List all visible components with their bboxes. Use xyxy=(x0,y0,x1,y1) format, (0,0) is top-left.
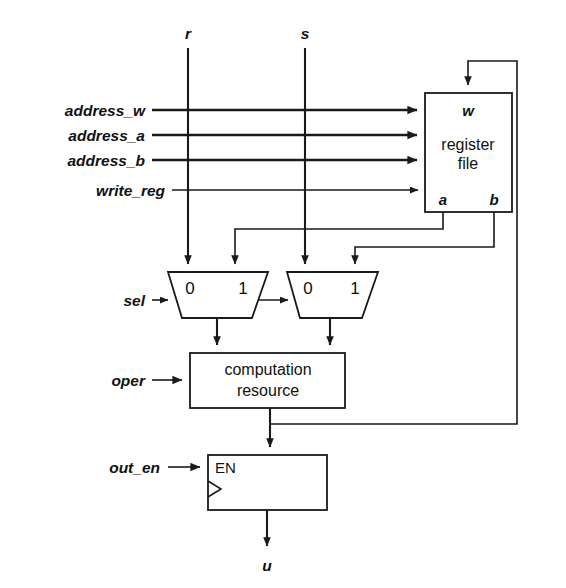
mux-right-input0-label: 0 xyxy=(303,279,312,298)
signal-out-en-group: out_en xyxy=(109,459,200,476)
register-file-label-line1: register xyxy=(441,136,495,153)
output-register-enable-label: EN xyxy=(215,459,236,476)
signal-label-address-w: address_w xyxy=(65,102,146,119)
wire-a-to-mux-left-in1 xyxy=(235,212,443,264)
register-file-port-b: b xyxy=(489,191,498,208)
signal-label-r: r xyxy=(185,25,192,42)
signal-label-write-reg: write_reg xyxy=(96,182,165,199)
mux-left: 0 1 xyxy=(168,272,268,345)
signal-address-b-group: address_b xyxy=(67,152,417,169)
signal-write-reg-group: write_reg xyxy=(96,182,418,199)
signal-r-group: r xyxy=(185,25,192,264)
mux-left-input0-label: 0 xyxy=(185,279,194,298)
port-b-routing-group xyxy=(355,212,494,264)
mux-left-shape xyxy=(168,272,268,318)
computation-resource-label-line2: resource xyxy=(237,382,299,399)
signal-u-group: u xyxy=(262,557,272,574)
signal-label-sel: sel xyxy=(123,292,145,309)
register-file-port-a: a xyxy=(439,191,447,208)
mux-left-input1-label: 1 xyxy=(238,279,247,298)
signal-address-w-group: address_w xyxy=(65,102,417,119)
mux-right-input1-label: 1 xyxy=(350,279,359,298)
register-file-port-w: w xyxy=(462,102,475,119)
signal-address-a-group: address_a xyxy=(68,127,417,144)
register-file-block: w register file a b xyxy=(425,93,512,212)
wire-b-to-mux-right-in1 xyxy=(355,212,494,264)
register-file-label-line2: file xyxy=(458,155,479,172)
port-a-routing-group xyxy=(235,212,443,264)
mux-right-shape xyxy=(287,272,378,318)
signal-label-address-b: address_b xyxy=(67,152,145,169)
signal-oper-group: oper xyxy=(111,372,182,389)
signal-label-s: s xyxy=(301,25,310,42)
signal-label-u: u xyxy=(262,557,272,574)
circuit-diagram-svg: r s address_w address_a address_b write_… xyxy=(0,0,566,588)
computation-resource-label-line1: computation xyxy=(224,361,311,378)
signal-label-out-en: out_en xyxy=(109,459,160,476)
signal-label-address-a: address_a xyxy=(68,127,145,144)
signal-label-oper: oper xyxy=(111,372,146,389)
mux-right: 0 1 xyxy=(287,272,378,345)
diagram-canvas: r s address_w address_a address_b write_… xyxy=(0,0,566,588)
output-register-block: EN xyxy=(208,455,327,546)
signal-s-group: s xyxy=(301,25,310,264)
computation-resource-block: computation resource xyxy=(190,353,345,447)
